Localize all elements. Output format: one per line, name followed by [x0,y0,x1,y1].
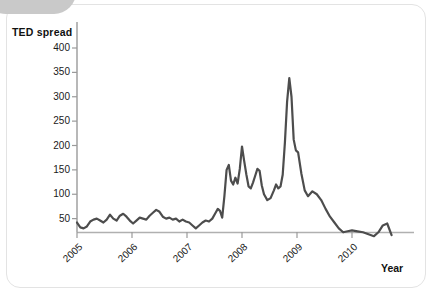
figure-root: TED spread Year 50100150200250300350400 … [0,0,435,295]
ted-spread-line [77,78,392,236]
axis-lines [77,22,414,233]
y-axis-ticks [72,48,77,219]
line-chart-plot [0,0,435,295]
